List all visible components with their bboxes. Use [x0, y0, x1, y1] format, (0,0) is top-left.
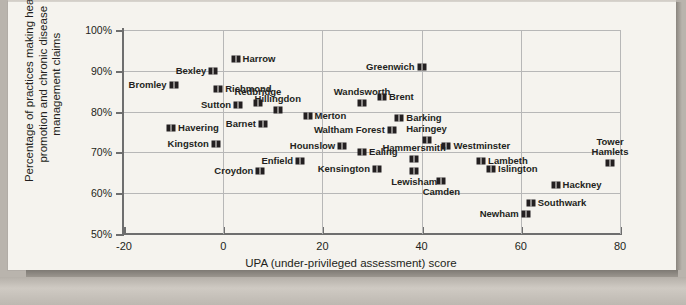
data-point-label: Hillingdon: [255, 94, 301, 104]
data-point-marker[interactable]: [372, 165, 381, 172]
data-point-marker[interactable]: [167, 124, 176, 131]
y-axis-tick: [116, 234, 123, 236]
page-gutter: [0, 277, 686, 305]
data-point-marker[interactable]: [395, 114, 404, 121]
y-axis-title-line-2: promotion and chronic disease: [36, 0, 50, 203]
data-point-marker[interactable]: [521, 210, 530, 217]
y-axis-tick-label: 80%: [91, 106, 112, 118]
data-point-marker[interactable]: [256, 167, 265, 174]
gridline-horizontal: [124, 193, 620, 194]
data-point-marker[interactable]: [606, 159, 615, 166]
y-axis-tick-label: 100%: [85, 24, 112, 36]
figure-page: Percentage of practices making health pr…: [0, 0, 686, 305]
data-point-label: Haringey: [406, 124, 447, 134]
data-point-marker[interactable]: [417, 63, 426, 70]
page-right-shadow: [676, 2, 682, 270]
data-point-label: Hammersmith: [382, 143, 445, 153]
data-point-label: Croydon: [214, 166, 253, 176]
data-point-marker[interactable]: [296, 157, 305, 164]
data-point-label: Kingston: [168, 139, 209, 149]
data-point-marker[interactable]: [338, 143, 347, 150]
y-axis-tick: [116, 193, 123, 195]
y-axis-tick-label: 60%: [91, 187, 112, 199]
data-point-marker[interactable]: [231, 55, 240, 62]
gridline-vertical: [521, 30, 522, 234]
y-axis-tick-label: 70%: [91, 146, 112, 158]
y-axis-tick-label: 50%: [91, 228, 112, 240]
data-point-label: Merton: [315, 111, 347, 121]
gridline-vertical: [223, 30, 224, 234]
data-point-label: Southwark: [538, 198, 587, 208]
y-axis-tick: [116, 152, 123, 154]
data-point-label: Islington: [498, 164, 538, 174]
data-point-marker[interactable]: [437, 177, 446, 184]
gridline-horizontal: [124, 112, 620, 113]
data-point-label: Havering: [178, 123, 219, 133]
data-point-label: Kensington: [318, 164, 370, 174]
data-point-marker[interactable]: [526, 200, 535, 207]
data-point-marker[interactable]: [303, 112, 312, 119]
data-point-label: Barking: [406, 113, 441, 123]
data-point-label: Westminster: [453, 141, 510, 151]
data-point-label: Camden: [423, 187, 460, 197]
chart-paper: Percentage of practices making health pr…: [8, 2, 676, 270]
data-point-marker[interactable]: [234, 102, 243, 109]
y-axis-title: Percentage of practices making health pr…: [23, 0, 64, 203]
data-point-label: Sutton: [201, 100, 231, 110]
data-point-marker[interactable]: [273, 106, 282, 113]
y-axis-title-line-3: management claims: [50, 0, 64, 203]
y-axis-tick-label: 90%: [91, 65, 112, 77]
plot-area: HarrowGreenwichBexleyBromleyRichmondBren…: [124, 30, 620, 234]
gridline-horizontal: [124, 30, 620, 31]
x-axis-title: UPA (under-privileged assessment) score: [8, 257, 686, 269]
data-point-label: Hackney: [563, 180, 602, 190]
page-bottom-bar: [26, 270, 678, 277]
data-point-marker[interactable]: [169, 82, 178, 89]
y-axis-title-line-1: Percentage of practices making health: [23, 0, 37, 203]
y-axis-tick: [116, 112, 123, 114]
data-point-marker[interactable]: [358, 100, 367, 107]
data-point-label: Wandsworth: [334, 87, 391, 97]
data-point-marker[interactable]: [410, 155, 419, 162]
x-axis-tick-label: 60: [515, 240, 527, 252]
data-point-label: Brent: [389, 92, 414, 102]
data-point-marker[interactable]: [214, 86, 223, 93]
data-point-label: TowerHamlets: [592, 137, 629, 157]
x-axis-tick-label: 20: [316, 240, 328, 252]
data-point-label: Newham: [480, 209, 519, 219]
data-point-marker[interactable]: [387, 126, 396, 133]
data-point-marker[interactable]: [209, 67, 218, 74]
x-axis-tick-label: -20: [116, 240, 132, 252]
data-point-label: Waltham Forest: [314, 125, 385, 135]
x-axis-tick-label: 0: [220, 240, 226, 252]
data-point-label: Harrow: [243, 54, 276, 64]
x-axis-tick-label: 80: [614, 240, 626, 252]
data-point-marker[interactable]: [487, 165, 496, 172]
data-point-marker[interactable]: [410, 167, 419, 174]
data-point-label: Hounslow: [290, 141, 335, 151]
data-point-label: Greenwich: [366, 62, 415, 72]
y-axis-tick: [116, 71, 123, 73]
data-point-marker[interactable]: [358, 149, 367, 156]
data-point-marker[interactable]: [551, 182, 560, 189]
x-axis-tick-label: 40: [415, 240, 427, 252]
gridline-vertical: [620, 30, 621, 234]
y-axis-tick: [116, 30, 123, 32]
data-point-label: Barnet: [226, 119, 256, 129]
data-point-label: Enfield: [261, 156, 293, 166]
data-point-marker[interactable]: [258, 120, 267, 127]
data-point-marker[interactable]: [211, 141, 220, 148]
data-point-label: Bromley: [129, 80, 167, 90]
data-point-label: Bexley: [176, 66, 207, 76]
data-point-marker[interactable]: [477, 157, 486, 164]
